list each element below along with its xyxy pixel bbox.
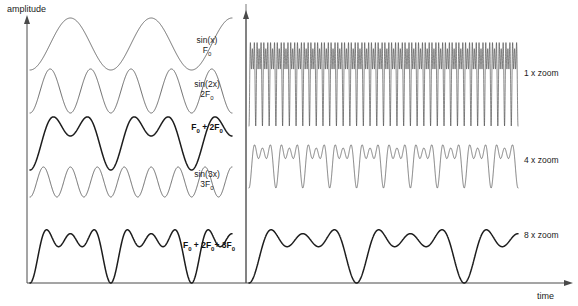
trace-zoom-1x-path <box>249 43 518 126</box>
y-axis-arrow-icon <box>24 15 30 24</box>
label-sum-f0-2f0-3f0: F0 + 2F0+ 3F0 <box>183 240 236 252</box>
label-sum-f0-2f0: F0 + 2F0 <box>191 122 223 134</box>
right-panel-labels: 1 x zoom 4 x zoom 8 x zoom <box>524 68 559 240</box>
label-zoom-1x: 1 x zoom <box>524 68 559 78</box>
label-sin-2x: sin(2x) <box>194 79 220 89</box>
label-sin-x: sin(x) <box>197 35 218 45</box>
y-axis-label: amplitude <box>7 4 46 14</box>
trace-zoom-4x-path <box>249 145 518 188</box>
label-sin-3x: sin(3x) <box>194 169 220 179</box>
right-panel-traces <box>249 43 518 283</box>
x-axis-label: time <box>537 291 554 301</box>
fourier-harmonics-figure: amplitude time sin(x) F0 sin(2x) 2F0 F0 … <box>0 0 578 306</box>
wave-sum-f0-2f0-3f0-path <box>30 230 232 283</box>
label-zoom-4x: 4 x zoom <box>524 155 559 165</box>
trace-zoom-8x-path <box>249 230 518 283</box>
label-3f0: 3F0 <box>200 179 214 191</box>
left-panel-labels: sin(x) F0 sin(2x) 2F0 F0 + 2F0 sin(3x) 3… <box>183 35 236 252</box>
right-y-axis-arrow-icon <box>243 10 249 19</box>
label-zoom-8x: 8 x zoom <box>524 230 559 240</box>
label-2f0: 2F0 <box>200 89 214 101</box>
x-axis-arrow-icon <box>564 280 573 286</box>
